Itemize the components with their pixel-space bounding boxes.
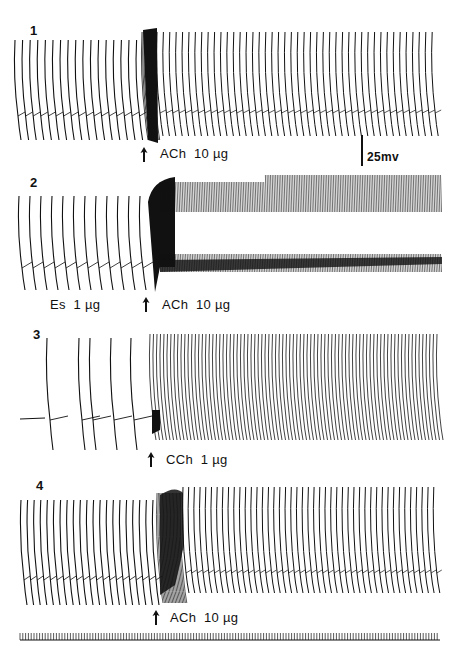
time-marker — [0, 630, 455, 644]
panel-2-drug-label: ACh 10 µg — [162, 297, 230, 312]
panel-4-drug-label: ACh 10 µg — [170, 610, 238, 625]
panel-3-trace — [0, 330, 455, 455]
scale-bar — [361, 135, 363, 166]
arrow-icon — [151, 609, 161, 625]
arrow-icon — [141, 296, 151, 312]
scale-bar-label: 25mv — [367, 150, 399, 164]
panel-3-drug-label: CCh 1 µg — [166, 452, 228, 467]
panel-2-trace — [0, 172, 455, 292]
panel-4-trace — [0, 485, 455, 605]
panel-2-pre-label: Es 1 µg — [50, 297, 100, 312]
arrow-icon — [146, 451, 156, 467]
panel-1-trace — [0, 28, 455, 148]
panel-1-drug-label: ACh 10 µg — [160, 146, 228, 161]
arrow-icon — [139, 146, 149, 162]
